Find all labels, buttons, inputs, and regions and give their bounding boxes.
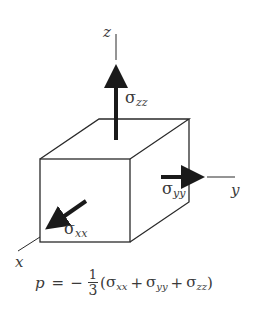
sigma-zz-label: σzz xyxy=(125,90,148,108)
sigma-xx-label: σxx xyxy=(64,221,87,239)
equation-lhs: p xyxy=(35,274,45,292)
sigma-xx-symbol: σ xyxy=(64,219,75,238)
stress-cube-diagram: z y x σzz σyy σxx p = − 1 3 ( σxx + σyy … xyxy=(0,0,257,316)
term-xx-subscript: xx xyxy=(116,281,127,292)
term-xx-symbol: σ xyxy=(106,273,116,291)
sigma-yy-label: σyy xyxy=(162,181,185,199)
x-axis-label: x xyxy=(15,255,23,270)
sigma-xx-subscript: xx xyxy=(75,227,87,240)
pressure-equation: p = − 1 3 ( σxx + σyy + σzz ) xyxy=(35,268,213,297)
term-yy-symbol: σ xyxy=(146,273,156,291)
equation-plus-1: + xyxy=(130,274,143,292)
equation-sign: − xyxy=(70,274,83,292)
term-zz-symbol: σ xyxy=(186,273,196,291)
sigma-yy-subscript: yy xyxy=(173,187,185,200)
term-zz-subscript: zz xyxy=(196,281,207,292)
x-axis-line xyxy=(18,237,40,251)
equation-close-paren: ) xyxy=(207,274,213,292)
equation-equals: = xyxy=(52,274,65,292)
equation-term-yy: σyy xyxy=(146,273,168,292)
equation-fraction: 1 3 xyxy=(88,268,98,297)
equation-term-xx: σxx xyxy=(106,273,128,292)
equation-term-zz: σzz xyxy=(186,273,207,292)
fraction-numerator: 1 xyxy=(88,268,98,283)
fraction-denominator: 3 xyxy=(88,283,97,298)
y-axis-label: y xyxy=(231,183,239,198)
sigma-yy-symbol: σ xyxy=(162,179,173,198)
equation-plus-2: + xyxy=(171,274,184,292)
sigma-zz-symbol: σ xyxy=(125,88,136,107)
sigma-zz-subscript: zz xyxy=(136,96,148,109)
z-axis-label: z xyxy=(103,25,111,40)
term-yy-subscript: yy xyxy=(156,281,167,292)
